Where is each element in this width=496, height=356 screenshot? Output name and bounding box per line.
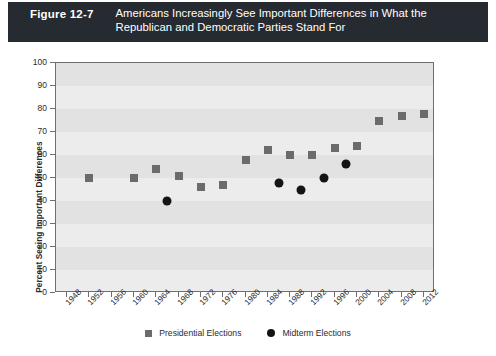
data-point-circle	[274, 178, 283, 187]
figure-number-label: Figure 12-7	[30, 7, 94, 20]
data-point-circle	[319, 174, 328, 183]
legend-label-presidential: Presidential Elections	[159, 328, 241, 338]
chart-area: Percent Seeing Important Differences 010…	[0, 44, 496, 356]
y-axis-tick-label: 80	[17, 103, 47, 113]
data-point-circle	[297, 185, 306, 194]
y-axis-tick-label: 0	[17, 287, 47, 297]
y-axis-tick	[50, 200, 55, 201]
y-axis-tick	[50, 131, 55, 132]
square-marker-icon	[145, 330, 152, 337]
data-point-square	[197, 183, 205, 191]
y-axis-tick-label: 10	[17, 264, 47, 274]
y-axis-title: Percent Seeing Important Differences	[34, 102, 44, 332]
data-point-square	[308, 151, 316, 159]
legend-item-midterm: Midterm Elections	[267, 328, 350, 338]
y-axis-tick-label: 60	[17, 149, 47, 159]
data-point-square	[219, 181, 227, 189]
data-point-square	[398, 112, 406, 120]
data-point-square	[152, 165, 160, 173]
y-axis-tick	[50, 85, 55, 86]
y-axis-tick-label: 100	[17, 57, 47, 67]
circle-marker-icon	[267, 329, 275, 337]
data-point-square	[331, 144, 339, 152]
y-axis-tick-label: 20	[17, 241, 47, 251]
data-point-square	[130, 174, 138, 182]
legend-label-midterm: Midterm Elections	[282, 328, 350, 338]
data-point-square	[420, 110, 428, 118]
y-axis-tick-label: 70	[17, 126, 47, 136]
plot-band	[56, 247, 433, 270]
y-axis-tick-label: 40	[17, 195, 47, 205]
figure-title: Americans Increasingly See Important Dif…	[116, 7, 478, 34]
data-point-square	[85, 174, 93, 182]
y-axis-tick-label: 30	[17, 218, 47, 228]
y-axis-tick	[50, 108, 55, 109]
y-axis-tick	[50, 62, 55, 63]
figure-header-band: Figure 12-7 Americans Increasingly See I…	[8, 2, 488, 42]
y-axis-tick	[50, 269, 55, 270]
data-point-square	[286, 151, 294, 159]
data-point-square	[264, 146, 272, 154]
chart-legend: Presidential Elections Midterm Elections	[0, 328, 496, 338]
plot-band	[56, 201, 433, 224]
data-point-square	[375, 117, 383, 125]
data-point-square	[175, 172, 183, 180]
data-point-square	[353, 142, 361, 150]
data-point-circle	[341, 160, 350, 169]
y-axis-tick-label: 90	[17, 80, 47, 90]
y-axis-tick	[50, 223, 55, 224]
legend-item-presidential: Presidential Elections	[145, 328, 241, 338]
y-axis-tick	[50, 292, 55, 293]
data-point-circle	[163, 197, 172, 206]
y-axis-tick	[50, 177, 55, 178]
y-axis-tick	[50, 246, 55, 247]
data-point-square	[242, 156, 250, 164]
figure-title-line-1: Americans Increasingly See Important Dif…	[116, 7, 478, 21]
y-axis-tick	[50, 154, 55, 155]
figure-title-line-2: Republican and Democratic Parties Stand …	[116, 21, 478, 35]
plot-band	[56, 63, 433, 86]
y-axis-tick-label: 50	[17, 172, 47, 182]
plot-area	[55, 62, 434, 292]
